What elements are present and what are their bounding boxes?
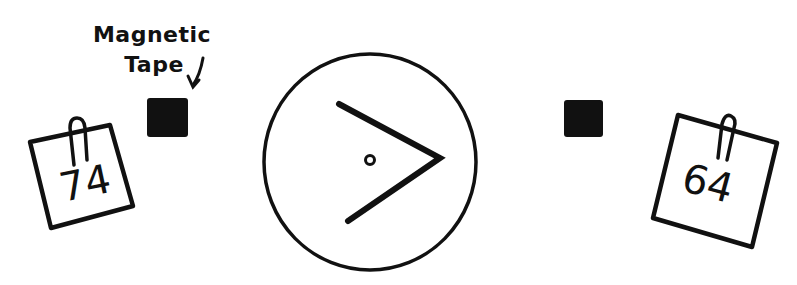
comparison-gauge	[264, 54, 476, 270]
left-magnet	[147, 98, 188, 137]
right-magnet	[564, 100, 603, 137]
magnetic-tape-label: Magnetic	[86, 22, 218, 48]
pivot-dot-icon	[366, 156, 375, 165]
magnetic-tape-label-line2: Tape	[118, 52, 190, 78]
greater-than-icon	[339, 104, 440, 221]
annotation-arrow-icon	[188, 58, 203, 87]
